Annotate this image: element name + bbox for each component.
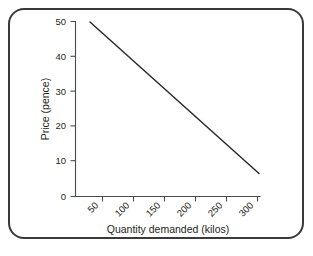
- x-tick-label-50: 50: [85, 200, 100, 215]
- x-tick-label-150: 150: [143, 200, 162, 219]
- y-tick-label-0: 0: [61, 191, 66, 202]
- x-axis-title: Quantity demanded (kilos): [107, 223, 230, 235]
- y-tick-label-20: 20: [55, 120, 66, 131]
- figure-root: 50 40 30 20 10 0 50 100 150 200 250 300 …: [0, 0, 313, 256]
- y-tick-label-50: 50: [55, 16, 66, 27]
- x-tick-label-250: 250: [205, 200, 224, 219]
- x-tick-marks: [103, 197, 258, 202]
- demand-curve-chart: 50 40 30 20 10 0 50 100 150 200 250 300 …: [0, 0, 313, 256]
- demand-curve-line: [90, 22, 259, 174]
- y-tick-label-40: 40: [55, 51, 66, 62]
- y-axis-title: Price (pence): [39, 78, 51, 140]
- x-tick-label-200: 200: [174, 200, 193, 219]
- y-tick-marks: [71, 22, 76, 197]
- y-tick-label-30: 30: [55, 86, 66, 97]
- plot-area: 50 40 30 20 10 0 50 100 150 200 250 300 …: [0, 0, 313, 256]
- y-tick-label-10: 10: [55, 155, 66, 166]
- x-tick-label-300: 300: [236, 200, 255, 219]
- x-tick-label-100: 100: [112, 200, 131, 219]
